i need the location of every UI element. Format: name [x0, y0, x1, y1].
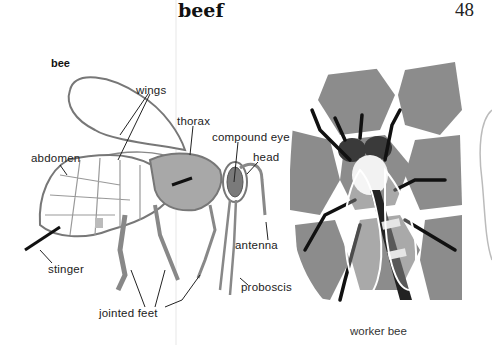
worker-bee-illustration	[0, 0, 492, 345]
illustration-caption: worker bee	[350, 325, 407, 337]
